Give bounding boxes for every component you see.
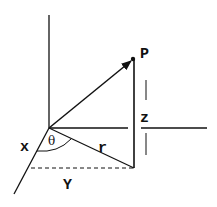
label-r: r [98,140,107,157]
label-x: x [20,139,29,156]
position-vector [49,61,131,128]
label-theta: θ [48,134,55,148]
r-projection-line [49,128,134,168]
x-axis [14,128,49,194]
coordinate-diagram: P z x r Y θ [0,0,217,207]
label-z: z [140,110,149,127]
label-y: Y [63,177,72,194]
label-p: P [140,46,149,63]
